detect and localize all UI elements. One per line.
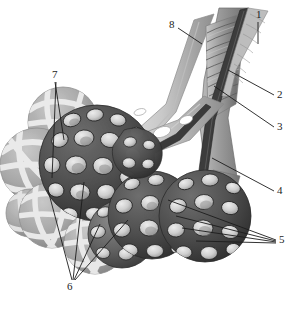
alveolar-sac-small: [112, 128, 162, 178]
label-5: 5: [279, 234, 285, 245]
alveolar-sac: [159, 170, 251, 262]
anatomical-figure: 1 2 3 4 5 6 7 8: [0, 0, 303, 313]
label-2: 2: [277, 89, 283, 100]
label-7: 7: [52, 69, 58, 80]
label-4: 4: [277, 185, 283, 196]
diagram-artwork: [0, 0, 303, 313]
label-1: 1: [256, 9, 262, 20]
label-8: 8: [169, 19, 175, 30]
label-6: 6: [67, 281, 73, 292]
label-3: 3: [277, 121, 283, 132]
